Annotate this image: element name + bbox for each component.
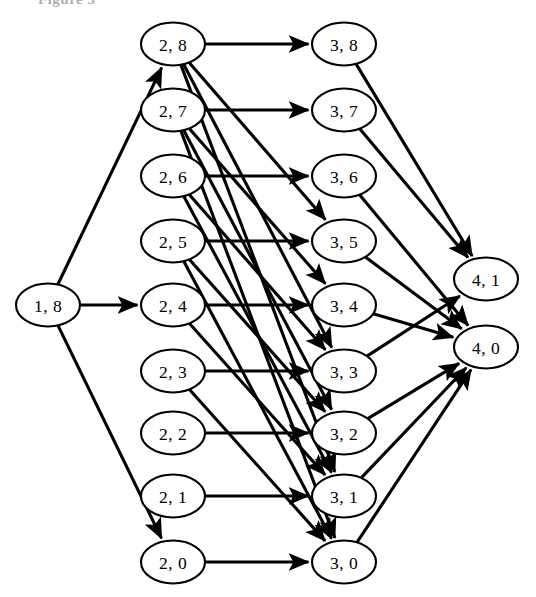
figure-page: Figure 5 1, 82, 82, 72, 62, 52, 42, 32, … xyxy=(0,0,536,597)
node-label: 3, 3 xyxy=(330,362,358,382)
node-label: 3, 6 xyxy=(330,167,358,187)
graph-node-1-8[interactable]: 1, 8 xyxy=(16,284,80,327)
graph-edge xyxy=(361,368,466,478)
node-label: 3, 2 xyxy=(330,424,358,444)
graph-node-2-8[interactable]: 2, 8 xyxy=(141,23,205,66)
graph-node-2-2[interactable]: 2, 2 xyxy=(141,412,205,455)
edge-layer xyxy=(58,44,472,562)
graph-node-4-1[interactable]: 4, 1 xyxy=(454,258,518,301)
graph-node-3-3[interactable]: 3, 3 xyxy=(312,350,376,393)
node-label: 2, 3 xyxy=(159,362,187,382)
graph-node-2-1[interactable]: 2, 1 xyxy=(141,475,205,518)
node-layer: 1, 82, 82, 72, 62, 52, 42, 32, 22, 12, 0… xyxy=(16,23,518,584)
node-label: 3, 0 xyxy=(330,553,358,573)
graph-edge xyxy=(189,259,325,411)
graph-node-3-7[interactable]: 3, 7 xyxy=(312,89,376,132)
graph-node-3-8[interactable]: 3, 8 xyxy=(312,23,376,66)
node-label: 2, 5 xyxy=(159,232,187,252)
graph-node-3-0[interactable]: 3, 0 xyxy=(312,541,376,584)
graph-node-2-5[interactable]: 2, 5 xyxy=(141,220,205,263)
node-label: 3, 7 xyxy=(330,101,358,121)
graph-edge xyxy=(189,323,325,474)
graph-edge xyxy=(184,130,332,409)
graph-node-4-0[interactable]: 4, 0 xyxy=(454,326,518,369)
node-label: 4, 1 xyxy=(472,270,500,290)
node-label: 3, 5 xyxy=(330,232,358,252)
graph-canvas: 1, 82, 82, 72, 62, 52, 42, 32, 22, 12, 0… xyxy=(0,0,536,597)
graph-edge xyxy=(356,64,472,256)
graph-node-3-4[interactable]: 3, 4 xyxy=(312,284,376,327)
node-label: 4, 0 xyxy=(472,338,500,358)
node-label: 2, 4 xyxy=(159,296,187,316)
graph-node-3-5[interactable]: 3, 5 xyxy=(312,220,376,263)
node-label: 2, 0 xyxy=(159,553,187,573)
node-label: 1, 8 xyxy=(34,296,62,316)
graph-node-2-6[interactable]: 2, 6 xyxy=(141,155,205,198)
graph-node-2-7[interactable]: 2, 7 xyxy=(141,89,205,132)
graph-edge xyxy=(357,370,471,543)
node-label: 2, 6 xyxy=(159,167,187,187)
node-label: 2, 1 xyxy=(159,487,187,507)
graph-node-2-0[interactable]: 2, 0 xyxy=(141,541,205,584)
node-label: 3, 1 xyxy=(330,487,358,507)
node-label: 2, 2 xyxy=(159,424,187,444)
graph-edge xyxy=(189,195,325,350)
graph-node-3-1[interactable]: 3, 1 xyxy=(312,475,376,518)
graph-node-3-6[interactable]: 3, 6 xyxy=(312,155,376,198)
node-label: 3, 4 xyxy=(330,296,358,316)
graph-edge xyxy=(367,296,460,356)
node-label: 2, 7 xyxy=(159,101,187,121)
node-label: 2, 8 xyxy=(159,35,187,55)
graph-node-2-3[interactable]: 2, 3 xyxy=(141,350,205,393)
node-label: 3, 8 xyxy=(330,35,358,55)
graph-node-2-4[interactable]: 2, 4 xyxy=(141,284,205,327)
graph-node-3-2[interactable]: 3, 2 xyxy=(312,412,376,455)
graph-edge xyxy=(365,257,461,329)
graph-edge xyxy=(189,389,325,540)
